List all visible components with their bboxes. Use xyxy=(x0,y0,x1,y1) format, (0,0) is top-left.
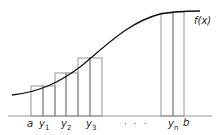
rectangle-6 xyxy=(90,58,102,116)
rectangle-n xyxy=(173,12,184,116)
function-curve xyxy=(12,11,200,95)
riemann-sum-diagram: f(x) a y1 y2 y3 · · · yn b xyxy=(0,0,220,135)
rectangle-4 xyxy=(66,73,78,116)
diagram-canvas xyxy=(0,0,220,135)
function-label: f(x) xyxy=(194,16,211,26)
label-a: a xyxy=(27,119,33,129)
label-yn: yn xyxy=(168,119,178,132)
label-b: b xyxy=(183,118,189,128)
rectangles xyxy=(31,12,184,116)
label-y1: y1 xyxy=(39,119,49,132)
ellipsis: · · · xyxy=(124,120,148,129)
label-y2: y2 xyxy=(61,119,71,132)
rectangle-n-1 xyxy=(161,13,173,116)
label-y3: y3 xyxy=(86,119,96,132)
rectangle-2 xyxy=(43,86,55,116)
